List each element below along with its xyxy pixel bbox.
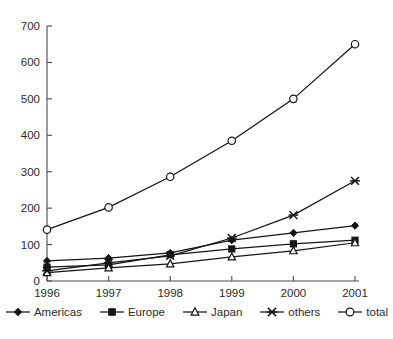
- legend-item-others[interactable]: others: [259, 305, 320, 319]
- x-tick-label: 2000: [281, 287, 307, 299]
- x-axis: 199619971998199920002001: [34, 276, 368, 299]
- data-point: [105, 204, 112, 211]
- y-tick-label: 100: [21, 239, 40, 251]
- cross-x-icon: [259, 305, 285, 319]
- open-circle-icon: [337, 305, 363, 319]
- y-tick-label: 700: [21, 20, 40, 32]
- open-triangle-icon: [182, 305, 208, 319]
- y-axis: 0100200300400500600700: [21, 20, 52, 287]
- y-tick-label: 0: [34, 275, 40, 287]
- data-point: [43, 226, 50, 233]
- x-tick-label: 1999: [219, 287, 245, 299]
- plot-area: 0100200300400500600700 19961997199819992…: [0, 0, 393, 339]
- data-point: [229, 246, 235, 252]
- data-point: [167, 173, 174, 180]
- data-point: [351, 222, 358, 229]
- legend-label: Americas: [34, 305, 82, 319]
- legend-label: Europe: [128, 305, 165, 319]
- data-point: [350, 177, 360, 185]
- x-tick-label: 1997: [96, 287, 122, 299]
- x-tick-label: 2001: [342, 287, 368, 299]
- data-point: [228, 137, 235, 144]
- x-tick-label: 1998: [157, 287, 183, 299]
- data-point: [43, 257, 50, 264]
- line-chart: 0100200300400500600700 19961997199819992…: [0, 0, 393, 339]
- legend-item-japan[interactable]: Japan: [182, 305, 242, 319]
- filled-square-icon: [99, 305, 125, 319]
- legend-item-americas[interactable]: Americas: [5, 305, 82, 319]
- series-japan: [43, 239, 358, 276]
- filled-diamond-icon: [5, 305, 31, 319]
- legend-item-total[interactable]: total: [337, 305, 388, 319]
- data-point: [289, 211, 299, 219]
- legend-label: others: [288, 305, 320, 319]
- y-tick-label: 500: [21, 93, 40, 105]
- x-tick-label: 1996: [34, 287, 60, 299]
- data-point: [290, 229, 297, 236]
- chart-legend: AmericasEuropeJapanotherstotal: [0, 305, 393, 319]
- legend-item-europe[interactable]: Europe: [99, 305, 165, 319]
- data-point: [351, 41, 358, 48]
- data-point: [290, 95, 297, 102]
- y-tick-label: 200: [21, 202, 40, 214]
- y-tick-label: 300: [21, 166, 40, 178]
- series-layer: [42, 41, 360, 276]
- legend-label: Japan: [211, 305, 242, 319]
- legend-label: total: [366, 305, 388, 319]
- y-tick-label: 600: [21, 56, 40, 68]
- y-tick-label: 400: [21, 129, 40, 141]
